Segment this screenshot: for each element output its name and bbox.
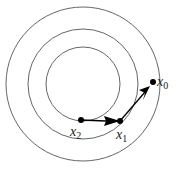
point-x1 xyxy=(117,118,123,124)
label-x1: x1 xyxy=(115,127,127,144)
contour-diagram: x0 x1 x2 xyxy=(0,0,177,169)
label-x0: x0 xyxy=(156,74,168,91)
outer-contour xyxy=(6,7,160,161)
inner-contour xyxy=(46,47,120,121)
step-x1-x0-line xyxy=(120,92,145,121)
label-x2: x2 xyxy=(69,124,81,141)
point-x0 xyxy=(150,79,156,85)
point-x2 xyxy=(78,117,84,123)
